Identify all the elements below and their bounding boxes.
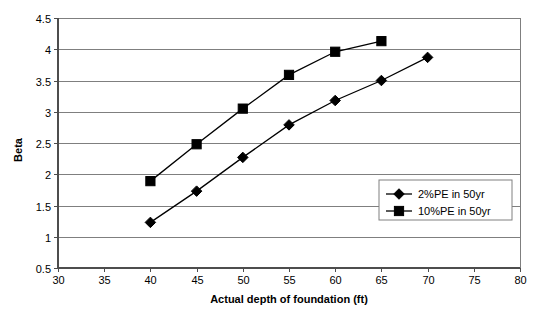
y-tick-label-3.5: 3.5 (36, 76, 51, 88)
x-tick-label-45: 45 (191, 274, 203, 286)
y-tick-label-3: 3 (45, 107, 51, 119)
data-point-2-3 (238, 104, 247, 113)
x-tick-label-55: 55 (283, 274, 295, 286)
y-axis-ticks: 0.511.522.533.544.5 (36, 13, 58, 275)
line-chart: 0.511.522.533.544.5 30354045505560657075… (0, 0, 546, 319)
x-tick-label-65: 65 (375, 274, 387, 286)
x-tick-label-35: 35 (98, 274, 110, 286)
x-axis-ticks: 3035404550556065707580 (52, 268, 526, 286)
y-tick-label-2: 2 (45, 169, 51, 181)
data-point-2-2 (192, 140, 201, 149)
data-point-2-4 (284, 70, 293, 79)
chart-container: 0.511.522.533.544.5 30354045505560657075… (0, 0, 546, 319)
data-point-2-1 (146, 177, 155, 186)
legend-label-1: 2%PE in 50yr (418, 188, 485, 200)
x-tick-label-80: 80 (514, 274, 526, 286)
legend-marker-2 (394, 206, 403, 215)
legend-label-2: 10%PE in 50yr (418, 205, 491, 217)
y-tick-label-4.5: 4.5 (36, 13, 51, 25)
x-tick-label-50: 50 (237, 274, 249, 286)
y-axis-title: Beta (12, 137, 24, 162)
x-tick-label-70: 70 (422, 274, 434, 286)
x-tick-label-30: 30 (52, 274, 64, 286)
y-tick-label-0.5: 0.5 (36, 263, 51, 275)
x-tick-label-75: 75 (468, 274, 480, 286)
x-tick-label-40: 40 (144, 274, 156, 286)
y-tick-label-2.5: 2.5 (36, 138, 51, 150)
chart-legend[interactable]: 2%PE in 50yr10%PE in 50yr (379, 180, 512, 220)
x-axis-title: Actual depth of foundation (ft) (210, 293, 368, 305)
y-tick-label-4: 4 (45, 44, 51, 56)
x-tick-label-60: 60 (329, 274, 341, 286)
data-point-2-5 (331, 47, 340, 56)
y-tick-label-1: 1 (45, 232, 51, 244)
y-tick-label-1.5: 1.5 (36, 201, 51, 213)
data-point-2-6 (377, 37, 386, 46)
